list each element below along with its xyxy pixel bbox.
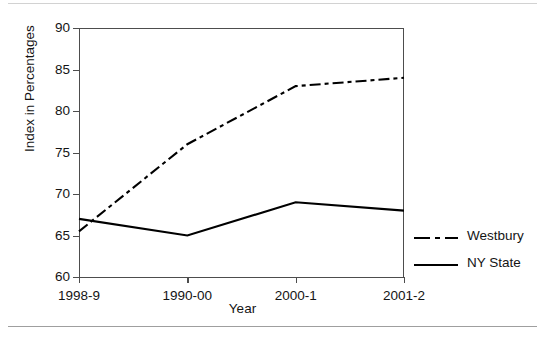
series-line-westbury [79, 78, 404, 232]
y-tick-label: 85 [55, 63, 70, 77]
legend-item-westbury[interactable]: Westbury [414, 222, 539, 249]
page-rule-top [8, 3, 537, 4]
x-tick-mark [187, 277, 188, 283]
legend-label: NY State [467, 255, 521, 270]
chart-legend: WestburyNY State [414, 222, 539, 276]
legend-swatch-solid [414, 257, 458, 269]
plot-area: 60657075808590 1998-91990-002000-12001-2 [79, 28, 404, 277]
y-axis-title: Index in Percentages [22, 25, 37, 152]
x-tick-label-2001-2: 2001-2 [383, 289, 425, 303]
page-rule-bottom [8, 326, 537, 327]
y-tick-label: 65 [55, 229, 70, 243]
y-tick-label: 60 [55, 270, 70, 284]
x-tick-label-1998-9: 1998-9 [58, 289, 100, 303]
x-axis-line [79, 277, 404, 278]
legend-label: Westbury [467, 228, 524, 243]
x-tick-label-1990-00: 1990-00 [163, 289, 213, 303]
x-tick-label-2000-1: 2000-1 [275, 289, 317, 303]
x-tick-mark [404, 277, 405, 283]
y-tick-label: 80 [55, 104, 70, 118]
x-tick-mark [296, 277, 297, 283]
series-lines [79, 28, 404, 277]
legend-item-ny-state[interactable]: NY State [414, 249, 539, 276]
y-tick-label: 90 [55, 21, 70, 35]
y-tick-label: 70 [55, 187, 70, 201]
y-tick-label: 75 [55, 146, 70, 160]
line-chart-figure: Index in Percentages Year 60657075808590… [0, 0, 545, 348]
series-line-ny-state [79, 202, 404, 235]
x-axis-title: Year [0, 301, 485, 316]
legend-swatch-dash-dot [414, 230, 458, 242]
x-tick-mark [79, 277, 80, 283]
